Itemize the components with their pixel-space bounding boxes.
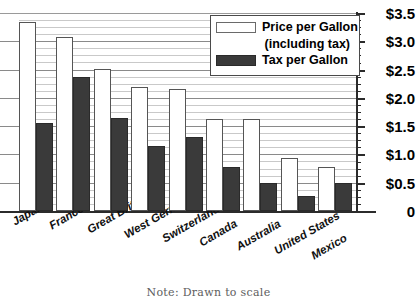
y-tick-minor — [357, 162, 361, 163]
legend-item-price: Price per Gallon — [216, 19, 354, 36]
y-axis-tick-label: $0.5 — [386, 176, 415, 191]
bar-price — [131, 87, 148, 211]
y-tick-minor — [357, 176, 361, 177]
bar-price — [206, 119, 223, 211]
bar-tax — [335, 183, 352, 211]
y-tick-minor — [357, 105, 361, 106]
x-axis-tick-label: Mexico — [309, 231, 349, 261]
y-tick-major — [357, 183, 365, 185]
legend-label-price: Price per Gallon — [262, 21, 358, 34]
bar-tax — [111, 118, 128, 211]
legend-item-tax: Tax per Gallon — [216, 52, 354, 69]
y-axis-labels: $3.5$3.0$2.5$2.0$1.5$1.0$0.50 — [366, 0, 417, 230]
y-tick-minor — [357, 140, 361, 141]
x-axis-labels: JapanFranceGreat BritainWest GermanySwit… — [0, 211, 417, 283]
legend-item-price-sub: (including tax) — [216, 36, 354, 52]
bar-tax — [148, 146, 165, 211]
y-axis-tick-label: $2.5 — [386, 63, 415, 78]
y-axis-tick-label: $3.0 — [386, 34, 415, 49]
gasoline-price-bar-chart: $3.5$3.0$2.5$2.0$1.5$1.0$0.50 JapanFranc… — [0, 0, 417, 305]
y-tick-minor — [357, 77, 361, 78]
chart-legend: Price per Gallon (including tax) Tax per… — [210, 15, 360, 76]
y-tick-major — [357, 126, 365, 128]
y-tick-minor — [357, 147, 361, 148]
y-tick-minor — [357, 112, 361, 113]
chart-note: Note: Drawn to scale — [0, 286, 417, 299]
bar-tax — [223, 167, 240, 211]
y-tick-minor — [357, 204, 361, 205]
legend-sublabel-price: (including tax) — [265, 38, 350, 51]
bar-price — [56, 37, 73, 211]
bar-tax — [36, 123, 53, 211]
y-tick-minor — [357, 169, 361, 170]
bar-tax — [260, 183, 277, 211]
bar-tax — [298, 196, 315, 211]
y-tick-minor — [357, 84, 361, 85]
bar-price — [19, 22, 36, 211]
legend-swatch-tax-icon — [216, 55, 256, 66]
y-tick-minor — [357, 190, 361, 191]
y-tick-minor — [357, 133, 361, 134]
y-tick-major — [357, 154, 365, 156]
legend-swatch-price-icon — [216, 22, 256, 33]
bar-price — [318, 167, 335, 211]
y-axis-tick-label: $3.5 — [386, 6, 415, 21]
bar-tax — [186, 137, 203, 211]
y-tick-minor — [357, 197, 361, 198]
bar-tax — [73, 77, 90, 211]
y-tick-minor — [357, 91, 361, 92]
y-tick-major — [357, 98, 365, 100]
bar-price — [169, 89, 186, 211]
y-tick-minor — [357, 119, 361, 120]
bar-price — [281, 158, 298, 211]
y-axis-tick-label: $1.5 — [386, 119, 415, 134]
y-axis-tick-label: $2.0 — [386, 91, 415, 106]
bar-price — [94, 69, 111, 211]
y-axis-tick-label: $1.0 — [386, 147, 415, 162]
bar-price — [243, 119, 260, 211]
legend-label-tax: Tax per Gallon — [262, 54, 348, 67]
